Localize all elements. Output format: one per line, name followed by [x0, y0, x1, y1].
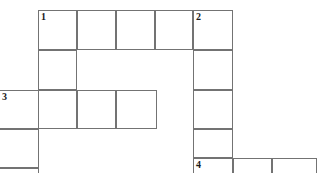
crossword-cell[interactable]	[233, 158, 272, 173]
crossword-cell[interactable]	[77, 90, 116, 129]
crossword-cell[interactable]: 3	[0, 90, 39, 129]
crossword-cell[interactable]	[0, 129, 39, 168]
crossword-cell[interactable]	[155, 10, 193, 50]
cell-number-label: 3	[2, 91, 7, 102]
crossword-cell[interactable]	[38, 90, 77, 129]
crossword-cell[interactable]	[0, 168, 39, 173]
crossword-cell[interactable]: 1	[38, 10, 77, 50]
crossword-puzzle: 1234	[0, 0, 317, 173]
crossword-cell[interactable]	[193, 129, 233, 158]
crossword-cell[interactable]	[116, 10, 155, 50]
crossword-cell[interactable]: 4	[193, 158, 233, 173]
crossword-cell[interactable]	[272, 158, 317, 173]
cell-number-label: 2	[196, 11, 201, 22]
crossword-cell[interactable]	[77, 10, 116, 50]
crossword-cell[interactable]: 2	[193, 10, 233, 50]
crossword-cell[interactable]	[193, 50, 233, 90]
crossword-cell[interactable]	[116, 90, 157, 129]
crossword-grid[interactable]: 1234	[0, 0, 317, 173]
cell-number-label: 4	[196, 159, 201, 170]
crossword-cell[interactable]	[193, 90, 233, 129]
cell-number-label: 1	[41, 11, 46, 22]
crossword-cell[interactable]	[38, 50, 77, 90]
